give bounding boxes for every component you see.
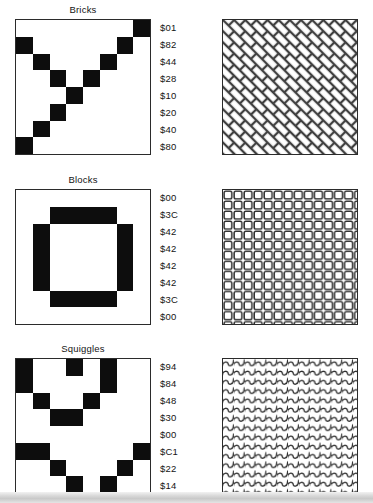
bitmap-cell[interactable] [117, 359, 134, 376]
bitmap-cell[interactable] [33, 409, 50, 426]
bitmap-cell[interactable] [133, 70, 150, 87]
bitmap-cell[interactable] [50, 207, 67, 224]
bitmap-cell[interactable] [100, 104, 117, 121]
bitmap-cells[interactable] [16, 359, 150, 493]
bitmap-cell[interactable] [16, 121, 33, 138]
bitmap-cell[interactable] [33, 104, 50, 121]
bitmap-cell[interactable] [83, 190, 100, 207]
bitmap-cell[interactable] [83, 54, 100, 71]
bitmap-cells[interactable] [16, 20, 150, 154]
bitmap-cell[interactable] [50, 121, 67, 138]
bitmap-cell[interactable] [50, 257, 67, 274]
bitmap-cell[interactable] [117, 376, 134, 393]
bitmap-cell[interactable] [33, 359, 50, 376]
bitmap-cell[interactable] [66, 460, 83, 477]
bitmap-cell[interactable] [117, 443, 134, 460]
bitmap-cell[interactable] [117, 460, 134, 477]
bitmap-cell[interactable] [83, 20, 100, 37]
bitmap-cell[interactable] [50, 409, 67, 426]
bitmap-cell[interactable] [66, 291, 83, 308]
bitmap-cell[interactable] [83, 409, 100, 426]
bitmap-cell[interactable] [117, 70, 134, 87]
bitmap-cell[interactable] [117, 393, 134, 410]
bitmap-cell[interactable] [133, 460, 150, 477]
bitmap-cell[interactable] [117, 426, 134, 443]
bitmap-cell[interactable] [133, 291, 150, 308]
bitmap-cell[interactable] [66, 409, 83, 426]
bitmap-cell[interactable] [33, 87, 50, 104]
bitmap-cell[interactable] [117, 37, 134, 54]
bitmap-cell[interactable] [100, 54, 117, 71]
bitmap-cell[interactable] [83, 426, 100, 443]
bitmap-cell[interactable] [50, 476, 67, 493]
bitmap-cell[interactable] [66, 54, 83, 71]
bitmap-cell[interactable] [100, 409, 117, 426]
bitmap-cell[interactable] [133, 307, 150, 324]
bitmap-cell[interactable] [33, 121, 50, 138]
bitmap-cell[interactable] [66, 359, 83, 376]
bitmap-cell[interactable] [66, 87, 83, 104]
bitmap-cell[interactable] [16, 70, 33, 87]
bitmap-cell[interactable] [83, 274, 100, 291]
bitmap-cell[interactable] [50, 274, 67, 291]
bitmap-cell[interactable] [50, 190, 67, 207]
bitmap-cell[interactable] [117, 257, 134, 274]
bitmap-cell[interactable] [117, 240, 134, 257]
bitmap-cell[interactable] [16, 54, 33, 71]
bitmap-editor-grid[interactable] [15, 189, 151, 325]
bitmap-cell[interactable] [50, 240, 67, 257]
bitmap-cell[interactable] [83, 307, 100, 324]
bitmap-cell[interactable] [133, 359, 150, 376]
bitmap-cell[interactable] [133, 476, 150, 493]
bitmap-cell[interactable] [133, 240, 150, 257]
bitmap-cell[interactable] [16, 307, 33, 324]
bitmap-cell[interactable] [16, 409, 33, 426]
bitmap-cell[interactable] [100, 224, 117, 241]
bitmap-cell[interactable] [16, 359, 33, 376]
bitmap-cell[interactable] [33, 274, 50, 291]
bitmap-cell[interactable] [33, 257, 50, 274]
bitmap-cell[interactable] [117, 291, 134, 308]
bitmap-cell[interactable] [83, 207, 100, 224]
bitmap-cell[interactable] [133, 443, 150, 460]
bitmap-cell[interactable] [83, 70, 100, 87]
bitmap-cell[interactable] [100, 291, 117, 308]
bitmap-cell[interactable] [66, 257, 83, 274]
bitmap-cell[interactable] [83, 476, 100, 493]
bitmap-cell[interactable] [16, 190, 33, 207]
bitmap-cell[interactable] [83, 257, 100, 274]
bitmap-cell[interactable] [16, 274, 33, 291]
bitmap-cell[interactable] [133, 393, 150, 410]
bitmap-cell[interactable] [33, 426, 50, 443]
bitmap-cell[interactable] [16, 376, 33, 393]
bitmap-cell[interactable] [50, 137, 67, 154]
bitmap-cell[interactable] [50, 460, 67, 477]
bitmap-cell[interactable] [66, 70, 83, 87]
bitmap-cell[interactable] [83, 121, 100, 138]
bitmap-cell[interactable] [100, 307, 117, 324]
bitmap-cell[interactable] [133, 20, 150, 37]
bitmap-cell[interactable] [16, 20, 33, 37]
bitmap-cell[interactable] [133, 274, 150, 291]
bitmap-cell[interactable] [33, 207, 50, 224]
bitmap-cell[interactable] [16, 426, 33, 443]
bitmap-cell[interactable] [117, 307, 134, 324]
bitmap-cell[interactable] [50, 104, 67, 121]
bitmap-cell[interactable] [33, 376, 50, 393]
bitmap-cell[interactable] [100, 274, 117, 291]
bitmap-cell[interactable] [50, 37, 67, 54]
bitmap-cell[interactable] [83, 443, 100, 460]
bitmap-cell[interactable] [117, 274, 134, 291]
bitmap-cell[interactable] [117, 409, 134, 426]
bitmap-cell[interactable] [117, 54, 134, 71]
bitmap-cell[interactable] [16, 137, 33, 154]
bitmap-cell[interactable] [16, 291, 33, 308]
bitmap-cell[interactable] [16, 443, 33, 460]
bitmap-editor-grid[interactable] [15, 19, 151, 155]
bitmap-cell[interactable] [33, 224, 50, 241]
bitmap-cell[interactable] [100, 190, 117, 207]
bitmap-cell[interactable] [117, 104, 134, 121]
bitmap-cell[interactable] [66, 393, 83, 410]
bitmap-cell[interactable] [16, 104, 33, 121]
bitmap-cell[interactable] [50, 224, 67, 241]
